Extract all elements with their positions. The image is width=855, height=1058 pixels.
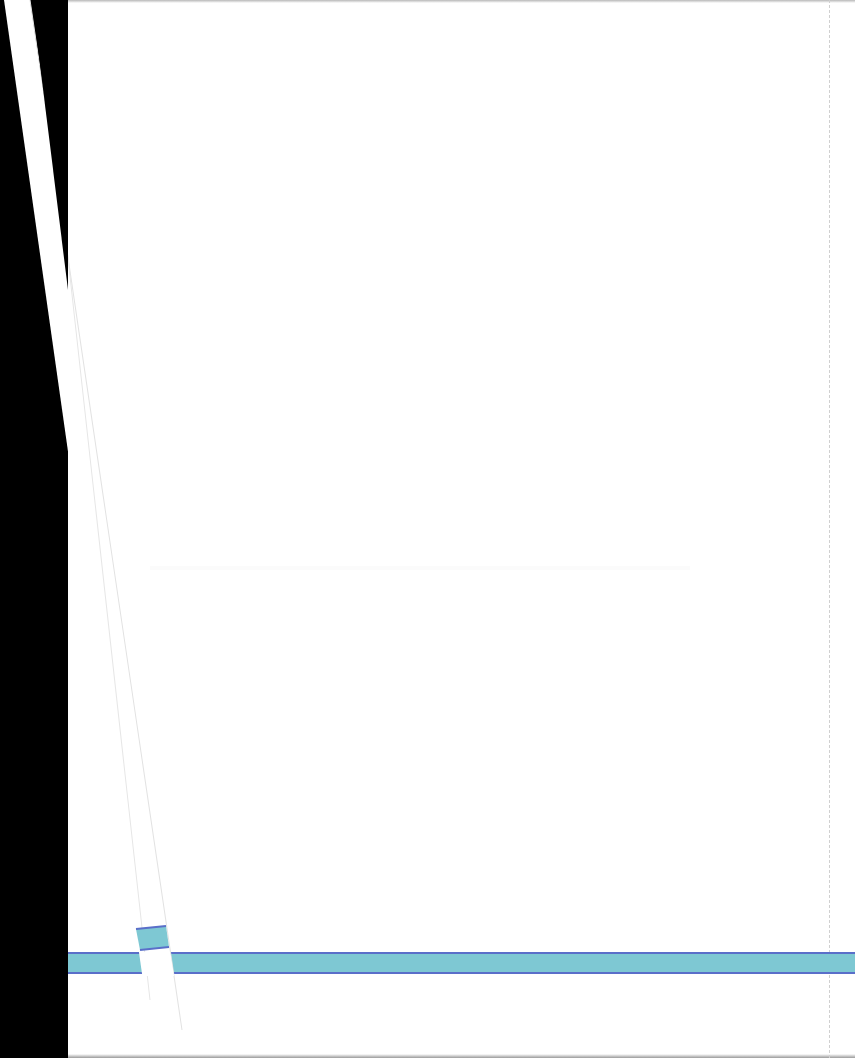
dashed-fold-line — [829, 0, 830, 1058]
teal-horizontal-band — [68, 952, 855, 974]
page-top-edge — [68, 0, 855, 3]
page-bottom-edge — [68, 1054, 855, 1058]
faint-show-through-line — [150, 566, 690, 570]
blank-page — [68, 0, 855, 1058]
